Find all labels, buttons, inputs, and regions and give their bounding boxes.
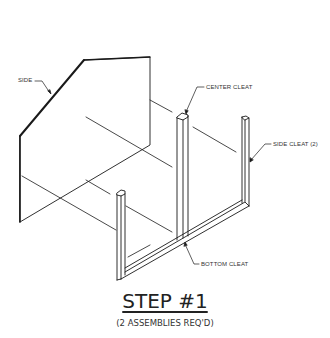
label-center-cleat: CENTER CLEAT [206, 84, 252, 90]
label-side-cleat: SIDE CLEAT (2) [273, 141, 318, 147]
leader-bottom-cleat [185, 244, 199, 264]
side-panel [20, 57, 150, 222]
leader-side-cleat [251, 144, 271, 160]
step-title: STEP #1 [0, 289, 330, 313]
center-cleat [177, 113, 188, 240]
side-cleat-left [117, 190, 125, 280]
label-bottom-cleat: BOTTOM CLEAT [201, 261, 248, 267]
step-title-text: STEP #1 [122, 289, 207, 313]
label-side: SIDE [18, 77, 32, 83]
step-subtitle: (2 ASSEMBLIES REQ'D) [0, 318, 330, 328]
side-cleat-right [242, 116, 249, 206]
leader-center-cleat [186, 87, 204, 112]
assembly-drawing [0, 0, 330, 338]
